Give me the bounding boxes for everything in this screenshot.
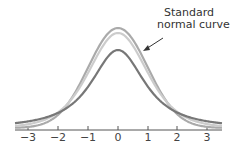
annotation-line2: normal curve [157, 18, 223, 31]
tick-label: −3 [16, 131, 40, 144]
tick-label: 2 [165, 131, 189, 144]
arrowhead-icon [143, 45, 150, 51]
tick-label: 3 [195, 131, 219, 144]
tick-label: 0 [106, 131, 130, 144]
tick-label: −1 [76, 131, 100, 144]
t-distribution-low-df-curve [15, 50, 222, 123]
axis-ticks [28, 126, 207, 130]
tick-label: −2 [46, 131, 70, 144]
distribution-curves [15, 28, 222, 128]
t-distribution-high-df-curve [15, 33, 222, 126]
standard-normal-curve [15, 28, 222, 128]
tick-label: 1 [136, 131, 160, 144]
